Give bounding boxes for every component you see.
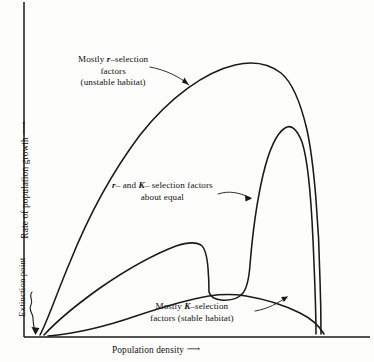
annotation-r-selection-line1: Mostly r–selection	[78, 54, 148, 66]
annotation-k-selection: Mostly K–selection factors (stable habit…	[150, 301, 234, 324]
annotation-rk-equal-mid: – and	[116, 180, 139, 190]
annotation-rk-equal-suffix: – selection factors	[145, 180, 213, 190]
y-axis-label: Rate of population growth ⟶	[19, 101, 30, 261]
annotation-k-selection-prefix: Mostly	[155, 301, 184, 311]
annotation-r-selection: Mostly r–selection factors (unstable hab…	[78, 54, 148, 89]
annotation-r-selection-line2: factors	[78, 66, 148, 78]
annotation-k-selection-line1: Mostly K–selection	[150, 301, 234, 313]
annotation-k-selection-line2: factors (stable habitat)	[150, 313, 234, 325]
extinction-point-arrowhead	[32, 327, 40, 335]
extinction-point-label: Extinction point	[17, 247, 27, 327]
annotation-rk-equal-line1: r– and K– selection factors	[112, 180, 213, 192]
x-axis-label: Population density ⟶	[112, 344, 199, 355]
figure-container: Mostly r–selection factors (unstable hab…	[0, 0, 374, 362]
annotation-r-selection-line3: (unstable habitat)	[78, 77, 148, 89]
y-axis-arrow-icon: ⟶	[18, 122, 29, 134]
annotation-rk-equal-line2: about equal	[112, 192, 213, 204]
y-axis-label-text: Rate of population growth	[20, 137, 30, 239]
x-axis-label-text: Population density	[112, 345, 184, 355]
annotation-k-selection-suffix: –selection	[190, 301, 228, 311]
annotation-rk-equal: r– and K– selection factors about equal	[112, 180, 213, 203]
leader-arrowhead-r-selection	[182, 78, 189, 86]
extinction-point-arrow	[30, 292, 35, 332]
leader-arrowhead-k-selection	[281, 297, 288, 303]
annotation-r-selection-prefix: Mostly	[78, 54, 107, 64]
annotation-r-selection-suffix: –selection	[110, 54, 148, 64]
x-axis-arrow-icon: ⟶	[187, 343, 199, 354]
leader-arrowhead-rk-equal	[245, 195, 252, 202]
